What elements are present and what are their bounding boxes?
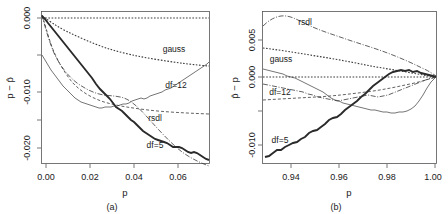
panel-b-series-labels: rsdl gauss df=12 df=5 [269,17,312,145]
curve-gauss [42,16,209,66]
xtick-label: 0.02 [81,172,99,182]
panel-b-xtickmarks [291,164,435,168]
panel-b-yticklabels: 0.005 0.000 -0.010 [247,29,257,158]
panel-a-series-labels: gauss df=12 rsdl df=5 [147,44,187,150]
x-axis-title: p [346,187,351,198]
xtick-label: 1.00 [424,172,442,182]
panel-a-svg: 0.000 -0.010 -0.020 p − p̂ [0,0,224,214]
panel-a-xticklabels: 0.00 0.02 0.04 0.06 [37,172,187,182]
curve-df12 [42,15,209,114]
ytick-label: -0.020 [22,135,32,161]
y-axis-title: p − p̂ [4,77,15,98]
panel-a: 0.000 -0.010 -0.020 p − p̂ [0,0,224,214]
xtick-label: 0.94 [282,172,300,182]
ytick-label: 0.005 [247,29,257,52]
curve-df5 [265,70,436,157]
series-label-rsdl: rsdl [148,113,162,123]
series-label-gauss: gauss [163,44,186,54]
xtick-label: 0.04 [125,172,143,182]
panel-b: 0.005 0.000 -0.010 p̂ − p [224,0,448,214]
series-label-df12: df=12 [269,87,291,97]
xtick-label: 0.06 [169,172,187,182]
panel-a-curves [42,15,209,166]
panel-b-ytickmarks [258,40,262,145]
ytick-label: 0.000 [247,66,257,89]
panel-a-xtickmarks [46,164,178,168]
x-axis-title: p [122,187,127,198]
xtick-label: 0.98 [378,172,396,182]
ytick-label: -0.010 [247,132,257,158]
panel-b-caption: (b) [224,202,448,212]
curve-rsdl [263,16,436,76]
panel-a-ytickmarks [37,18,41,148]
panel-a-yticklabels: 0.000 -0.010 -0.020 [22,7,32,161]
xtick-label: 0.00 [37,172,55,182]
panel-b-xticklabels: 0.94 0.96 0.98 1.00 [282,172,442,182]
series-label-df5: df=5 [147,140,164,150]
series-label-df5: df=5 [272,135,289,145]
xtick-label: 0.96 [330,172,348,182]
ytick-label: 0.000 [22,7,32,30]
ytick-label: -0.010 [22,79,32,105]
y-axis-title: p̂ − p [229,77,240,98]
panel-a-caption: (a) [0,202,224,212]
figure-container: 0.000 -0.010 -0.020 p − p̂ [0,0,448,214]
panel-b-svg: 0.005 0.000 -0.010 p̂ − p [224,0,448,214]
series-label-rsdl: rsdl [298,17,312,27]
series-label-gauss: gauss [270,54,293,64]
series-label-df12: df=12 [165,80,187,90]
